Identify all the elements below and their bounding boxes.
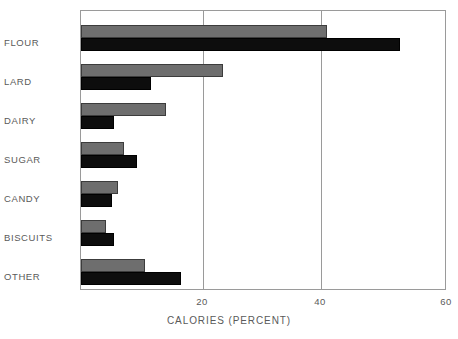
bar-flour-black bbox=[81, 38, 400, 51]
bar-candy-gray bbox=[81, 181, 118, 194]
bar-biscuits-black bbox=[81, 233, 114, 246]
bar-lard-black bbox=[81, 77, 151, 90]
x-axis-title: CALORIES (PERCENT) bbox=[0, 315, 458, 326]
category-label-dairy: DAIRY bbox=[4, 116, 68, 126]
category-label-biscuits: BISCUITS bbox=[4, 233, 68, 243]
gridline-40 bbox=[321, 11, 322, 289]
category-label-flour: FLOUR bbox=[4, 38, 68, 48]
xtick-label-60: 60 bbox=[440, 296, 452, 307]
category-axis-labels: FLOUR LARD DAIRY SUGAR CANDY BISCUITS OT… bbox=[0, 10, 74, 290]
category-label-lard: LARD bbox=[4, 77, 68, 87]
bar-other-black bbox=[81, 272, 181, 285]
xtick-label-40: 40 bbox=[314, 296, 326, 307]
bar-dairy-black bbox=[81, 116, 114, 129]
category-label-candy: CANDY bbox=[4, 194, 68, 204]
plot-area bbox=[80, 10, 446, 290]
bar-biscuits-gray bbox=[81, 220, 106, 233]
bar-flour-gray bbox=[81, 25, 327, 38]
bar-dairy-gray bbox=[81, 103, 166, 116]
xtick-label-20: 20 bbox=[196, 296, 208, 307]
bar-lard-gray bbox=[81, 64, 223, 77]
category-label-other: OTHER bbox=[4, 272, 68, 282]
bar-sugar-black bbox=[81, 155, 137, 168]
bar-sugar-gray bbox=[81, 142, 124, 155]
bar-other-gray bbox=[81, 259, 145, 272]
gridline-20 bbox=[203, 11, 204, 289]
bar-candy-black bbox=[81, 194, 112, 207]
bar-chart: FLOUR LARD DAIRY SUGAR CANDY BISCUITS OT… bbox=[0, 0, 458, 339]
category-label-sugar: SUGAR bbox=[4, 155, 68, 165]
